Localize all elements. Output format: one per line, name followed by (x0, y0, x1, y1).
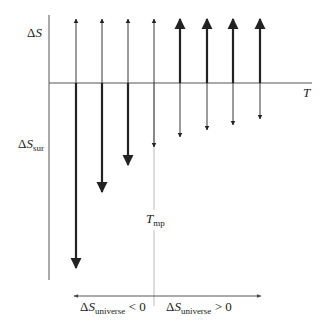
label-x-axis-t: T (303, 86, 310, 99)
label-delta-s: ΔS (27, 26, 42, 39)
entropy-arrows (76, 19, 260, 268)
entropy-diagram (0, 0, 324, 321)
label-universe-negative: ΔSuniverse < 0 (80, 300, 146, 316)
label-t-mp: Tmp (146, 210, 165, 230)
label-universe-positive: ΔSuniverse > 0 (166, 300, 232, 316)
label-delta-s-sur: ΔSsur (18, 137, 44, 153)
